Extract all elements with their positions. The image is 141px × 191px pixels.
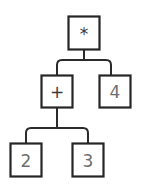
- node-label-left: +: [50, 82, 64, 102]
- node-label-left-right: 3: [83, 151, 94, 171]
- node-label-left-left: 2: [21, 151, 32, 171]
- edge-root-bracket: [57, 60, 111, 75]
- edge-plus-bracket: [26, 128, 88, 143]
- node-label-right: 4: [110, 82, 121, 102]
- node-label-root: *: [80, 24, 89, 44]
- tree-graphic: * + 4 2 3: [0, 0, 141, 191]
- expression-tree-diagram: * + 4 2 3: [0, 0, 141, 191]
